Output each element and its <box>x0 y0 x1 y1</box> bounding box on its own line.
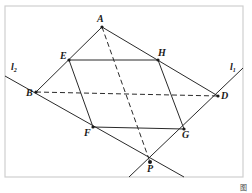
dashed-segment-BD <box>36 92 218 96</box>
label-F: F <box>83 127 91 138</box>
label-l2: l2 <box>11 61 17 73</box>
figure-frame <box>5 6 243 177</box>
label-H: H <box>157 47 167 58</box>
figure-caption: 图 <box>240 184 247 192</box>
point-A-dot <box>100 25 103 28</box>
point-B-dot <box>34 90 37 93</box>
point-E-dot <box>67 58 70 61</box>
label-A: A <box>96 13 104 24</box>
point-F-dot <box>91 125 94 128</box>
point-D-dot <box>216 94 219 97</box>
label-l1-subscript: 1 <box>233 67 236 73</box>
point-H-dot <box>156 58 159 61</box>
label-B: B <box>25 87 33 98</box>
label-l2-subscript: 2 <box>13 67 17 73</box>
label-l1: l1 <box>230 61 236 73</box>
segment-AD <box>102 27 218 96</box>
label-E: E <box>59 50 67 61</box>
geometry-diagram: A B D E F G H P l2 l1 图 <box>0 0 252 193</box>
line-l1 <box>129 68 243 177</box>
label-G: G <box>182 129 190 140</box>
label-P: P <box>147 163 154 174</box>
label-D: D <box>220 90 228 101</box>
